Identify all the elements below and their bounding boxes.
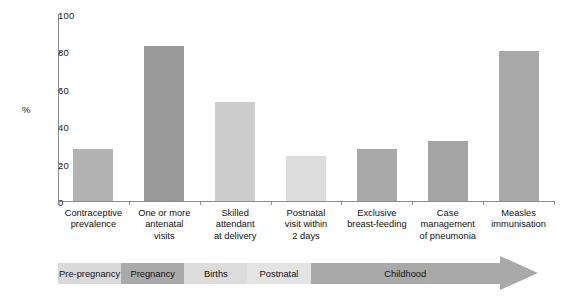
x-axis-category-label-line: Measles (483, 208, 554, 219)
x-axis-tick-mark (58, 201, 59, 205)
x-axis-category-label-line: Exclusive (341, 208, 412, 219)
x-axis-category-label-line: management (412, 219, 483, 230)
x-axis-category-label-line: breast-feeding (341, 219, 412, 230)
bar (215, 102, 255, 201)
bar-chart: % 020406080100 ContraceptiveprevalenceOn… (0, 0, 565, 300)
x-axis-category-label-line: visits (129, 231, 200, 242)
x-axis-category-label: Measlesimmunisation (483, 208, 554, 231)
y-axis-tick-label: 40 (58, 122, 73, 133)
y-axis-tick-mark (58, 164, 62, 165)
y-axis-tick-mark (58, 126, 62, 127)
y-axis-tick-label: 20 (58, 160, 73, 171)
x-axis-tick-mark (341, 201, 342, 205)
x-axis-category-label: Contraceptiveprevalence (58, 208, 129, 231)
x-axis-category-label-line: prevalence (58, 219, 129, 230)
x-axis-category-label: Skilledattendantat delivery (200, 208, 271, 242)
stage-segment-label: Pregnancy (130, 269, 174, 279)
x-axis-category-label-line: Case (412, 208, 483, 219)
y-axis-tick-label: 0 (58, 197, 67, 208)
x-axis-category-label-line: of pneumonia (412, 231, 483, 242)
x-axis-category-label-line: Postnatal (271, 208, 342, 219)
stage-segment: Postnatal (247, 263, 310, 284)
stage-segment-label: Childhood (384, 269, 426, 279)
y-axis-tick-mark (58, 14, 62, 15)
bar (144, 46, 184, 201)
x-axis-category-label: Postnatalvisit within2 days (271, 208, 342, 242)
stage-segment-label: Pre-pregnancy (59, 269, 120, 279)
x-axis-tick-mark (412, 201, 413, 205)
bar (73, 149, 113, 201)
y-axis-tick-label: 100 (58, 10, 78, 21)
y-axis-tick-label: 60 (58, 85, 73, 96)
x-axis-category-label-line: visit within (271, 219, 342, 230)
x-axis-category-label: Exclusivebreast-feeding (341, 208, 412, 231)
lifecycle-stage-band: Pre-pregnancyPregnancyBirthsPostnatalChi… (58, 263, 500, 284)
x-axis-category-label-line: attendant (200, 219, 271, 230)
x-axis-tick-mark (200, 201, 201, 205)
stage-segment: Pre-pregnancy (58, 263, 121, 284)
y-axis-tick-label: 80 (58, 47, 73, 58)
y-axis-tick-mark (58, 89, 62, 90)
stage-segment: Childhood (311, 263, 500, 284)
x-axis-category-label-line: at delivery (200, 231, 271, 242)
stage-segment-label: Postnatal (260, 269, 299, 279)
x-axis-line (58, 201, 554, 202)
x-axis-tick-mark (271, 201, 272, 205)
bar (357, 149, 397, 201)
x-axis-category-label-line: antenatal (129, 219, 200, 230)
arrow-head-icon (500, 256, 538, 290)
bar (286, 156, 326, 201)
x-axis-category-label-line: One or more (129, 208, 200, 219)
bar (499, 51, 539, 201)
x-axis-category-label-line: 2 days (271, 231, 342, 242)
y-axis-tick-mark (58, 51, 62, 52)
stage-segment-label: Births (204, 269, 228, 279)
x-axis-category-label-line: Skilled (200, 208, 271, 219)
x-axis-tick-mark (129, 201, 130, 205)
stage-segment: Births (184, 263, 247, 284)
x-axis-category-label: One or moreantenatalvisits (129, 208, 200, 242)
stage-segment: Pregnancy (121, 263, 184, 284)
bar (428, 141, 468, 201)
x-axis-category-label-line: immunisation (483, 219, 554, 230)
y-axis-label: % (22, 104, 30, 115)
x-axis-tick-mark (483, 201, 484, 205)
plot-area (58, 14, 554, 201)
x-axis-category-label: Casemanagementof pneumonia (412, 208, 483, 242)
x-axis-tick-mark (554, 201, 555, 205)
x-axis-category-label-line: Contraceptive (58, 208, 129, 219)
